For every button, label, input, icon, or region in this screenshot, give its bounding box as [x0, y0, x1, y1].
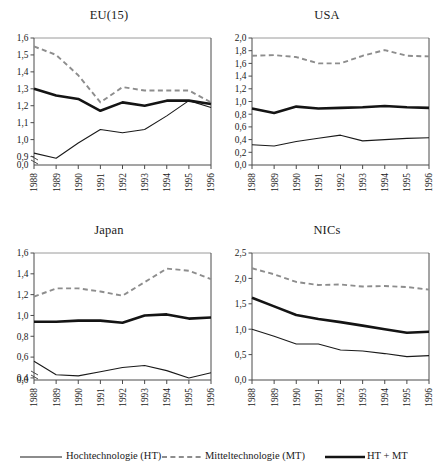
y-tick-label: 1,4 — [17, 67, 29, 77]
y-tick-label: 1,0 — [235, 97, 247, 107]
y-tick-label: 0,8 — [235, 110, 247, 120]
chart-grid: EU(15) 0,00,91,01,11,21,31,41,51,6198819… — [0, 0, 436, 440]
y-tick-label: 0,6 — [235, 122, 247, 132]
y-tick-label: 0,8 — [17, 332, 29, 342]
x-tick-label: 1994 — [380, 388, 390, 407]
panel-title: Japan — [0, 223, 218, 238]
y-tick-label: 0,4 — [17, 373, 29, 383]
x-tick-label: 1991 — [96, 173, 106, 192]
chart-panel-usa: USA 0,00,20,40,60,81,01,21,41,61,82,0198… — [218, 0, 436, 237]
series-line-sum — [252, 298, 429, 333]
panel-title: EU(15) — [0, 8, 218, 23]
x-tick-label: 1989 — [270, 388, 280, 407]
y-tick-label: 0,5 — [235, 350, 247, 360]
x-tick-label: 1989 — [270, 173, 280, 192]
panel-title: NICs — [218, 223, 436, 238]
y-tick-label: 1,2 — [235, 84, 247, 94]
series-line-mt — [34, 46, 211, 102]
y-tick-label: 2,0 — [235, 33, 247, 43]
plot-area: 0,00,51,01,52,02,51988198919901991199219… — [218, 241, 436, 446]
x-tick-label: 1993 — [140, 173, 150, 192]
x-tick-label: 1994 — [380, 173, 390, 192]
y-tick-label: 1,2 — [17, 101, 29, 111]
y-tick-label: 1,0 — [235, 325, 247, 335]
y-tick-label: 1,0 — [17, 135, 29, 145]
chart-panel-eu15: EU(15) 0,00,91,01,11,21,31,41,51,6198819… — [0, 0, 218, 237]
series-line-sum — [252, 106, 429, 113]
x-tick-label: 1992 — [118, 388, 128, 407]
y-tick-label: 0,9 — [17, 152, 29, 162]
series-line-ht — [34, 101, 211, 159]
y-tick-label: 1,0 — [17, 311, 29, 321]
x-tick-label: 1995 — [184, 173, 194, 192]
y-tick-label: 1,4 — [235, 71, 247, 81]
x-tick-label: 1988 — [29, 173, 39, 192]
legend-label-sum: HT + MT — [367, 450, 408, 461]
series-line-mt — [34, 269, 211, 297]
x-tick-label: 1989 — [52, 388, 62, 407]
y-tick-label: 1,5 — [17, 50, 29, 60]
x-tick-label: 1995 — [402, 388, 412, 407]
x-tick-label: 1991 — [96, 388, 106, 407]
chart-svg-1: 0,00,20,40,60,81,01,21,41,61,82,01988198… — [218, 26, 436, 231]
x-tick-label: 1992 — [118, 173, 128, 192]
x-tick-label: 1992 — [336, 388, 346, 407]
y-tick-label: 1,3 — [17, 84, 29, 94]
x-tick-label: 1988 — [247, 173, 257, 192]
y-tick-label: 1,5 — [235, 299, 247, 309]
x-tick-label: 1996 — [424, 388, 434, 407]
x-tick-label: 1996 — [206, 388, 216, 407]
x-tick-label: 1995 — [402, 173, 412, 192]
legend-label-mt: Mitteltechnologie (MT) — [205, 450, 305, 461]
x-tick-label: 1990 — [292, 388, 302, 407]
x-tick-label: 1991 — [314, 173, 324, 192]
series-line-mt — [252, 50, 429, 63]
x-tick-label: 1988 — [247, 388, 257, 407]
plot-area: 0,00,91,01,11,21,31,41,51,61988198919901… — [0, 26, 218, 231]
series-line-sum — [34, 89, 211, 111]
chart-panel-japan: Japan 0,00,40,60,81,01,21,41,61988198919… — [0, 215, 218, 452]
chart-svg-0: 0,00,91,01,11,21,31,41,51,61988198919901… — [0, 26, 218, 231]
chart-svg-2: 0,00,40,60,81,01,21,41,61988198919901991… — [0, 241, 218, 446]
y-tick-label: 1,2 — [17, 290, 29, 300]
x-tick-label: 1990 — [74, 173, 84, 192]
chart-panel-nics: NICs 0,00,51,01,52,02,519881989199019911… — [218, 215, 436, 452]
chart-legend: Hochtechnologie (HT) Mitteltechnologie (… — [0, 440, 436, 474]
series-line-mt — [252, 268, 429, 289]
series-line-ht — [252, 135, 429, 146]
y-tick-label: 1,6 — [235, 59, 247, 69]
y-tick-label: 2,0 — [235, 274, 247, 284]
y-tick-label: 1,6 — [17, 33, 29, 43]
y-tick-label: 0,4 — [235, 135, 247, 145]
x-tick-label: 1989 — [52, 173, 62, 192]
x-tick-label: 1990 — [292, 173, 302, 192]
y-tick-label: 2,5 — [235, 248, 247, 258]
series-line-ht — [34, 361, 211, 378]
y-tick-label: 0,0 — [235, 160, 247, 170]
series-line-sum — [34, 314, 211, 322]
x-tick-label: 1990 — [74, 388, 84, 407]
x-tick-label: 1995 — [184, 388, 194, 407]
legend-label-ht: Hochtechnologie (HT) — [66, 450, 161, 461]
plot-area: 0,00,40,60,81,01,21,41,61988198919901991… — [0, 241, 218, 446]
x-tick-label: 1994 — [162, 388, 172, 407]
x-tick-label: 1996 — [424, 173, 434, 192]
x-tick-label: 1993 — [358, 173, 368, 192]
x-tick-label: 1993 — [358, 388, 368, 407]
y-tick-label: 0,2 — [235, 148, 247, 158]
plot-area: 0,00,20,40,60,81,01,21,41,61,82,01988198… — [218, 26, 436, 231]
x-tick-label: 1991 — [314, 388, 324, 407]
y-tick-label: 0,0 — [235, 375, 247, 385]
x-tick-label: 1994 — [162, 173, 172, 192]
x-tick-label: 1996 — [206, 173, 216, 192]
y-tick-label: 0,6 — [17, 352, 29, 362]
panel-title: USA — [218, 8, 436, 23]
chart-svg-3: 0,00,51,01,52,02,51988198919901991199219… — [218, 241, 436, 446]
y-tick-label: 1,4 — [17, 269, 29, 279]
y-tick-label: 1,1 — [17, 118, 29, 128]
x-tick-label: 1992 — [336, 173, 346, 192]
x-tick-label: 1988 — [29, 388, 39, 407]
x-tick-label: 1993 — [140, 388, 150, 407]
y-tick-label: 1,6 — [17, 248, 29, 258]
y-tick-label: 1,8 — [235, 46, 247, 56]
